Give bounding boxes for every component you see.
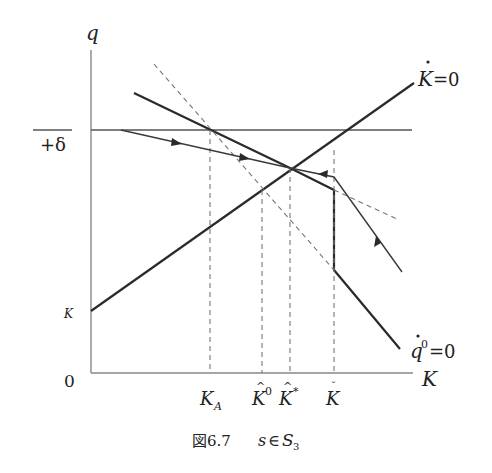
- y-axis-label: q: [86, 21, 99, 45]
- trajectory-left: [121, 130, 290, 168]
- k-dot-zero-label: K =0: [417, 60, 460, 91]
- x-axis-label: K: [421, 367, 438, 391]
- trajectory-right: [290, 168, 402, 272]
- q-dot-zero-curve: [134, 93, 400, 349]
- tick-k-hat-star: K ^ *: [278, 380, 299, 409]
- svg-text:*: *: [293, 385, 299, 398]
- dot-accent: [426, 60, 429, 63]
- svg-text:K: K: [199, 388, 215, 409]
- svg-text:0: 0: [265, 385, 272, 398]
- svg-text:∈: ∈: [268, 431, 280, 450]
- svg-text:s: s: [258, 431, 266, 450]
- shallow-dashed-line: [334, 190, 397, 219]
- svg-text:K: K: [325, 388, 341, 409]
- steep-dashed-line: [154, 64, 334, 270]
- svg-text:A: A: [213, 400, 222, 413]
- svg-text:^: ^: [283, 380, 292, 393]
- origin-label: 0: [64, 371, 75, 391]
- svg-text:K: K: [417, 67, 434, 91]
- svg-text:S: S: [282, 430, 294, 450]
- y-tick-upper-label: +δ: [40, 134, 66, 155]
- dot-accent: [416, 334, 419, 337]
- svg-text:=0: =0: [429, 341, 456, 362]
- svg-text:˘: ˘: [331, 380, 336, 391]
- tick-k-hat-0: K ^ 0: [251, 380, 272, 409]
- svg-text:=0: =0: [433, 69, 460, 90]
- tick-k-breve: K ˘: [325, 380, 341, 409]
- arrow-right-icon: [239, 153, 250, 161]
- svg-text:0: 0: [421, 338, 428, 351]
- phase-diagram: q K 0 +δ K K =0 q 0 =0 K A K ^ 0 K ^ * K…: [0, 0, 492, 473]
- tick-k-a: K A: [199, 388, 222, 413]
- k-dot-zero-line: [91, 83, 414, 311]
- arrow-right-icon: [171, 138, 182, 146]
- arrow-left-icon: [318, 170, 328, 178]
- figure-caption: 図6.7 s ∈ S 3: [192, 430, 299, 452]
- svg-text:図6.7: 図6.7: [192, 432, 231, 450]
- svg-text:3: 3: [293, 441, 299, 452]
- q-dot-zero-label: q 0 =0: [410, 334, 456, 363]
- y-tick-lower-label: K: [63, 307, 74, 321]
- svg-text:^: ^: [256, 380, 265, 393]
